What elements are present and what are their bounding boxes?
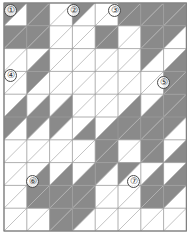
numbered-marker-5[interactable]: ⑤ xyxy=(157,76,170,89)
numbered-marker-2[interactable]: ② xyxy=(67,4,80,17)
numbered-marker-7[interactable]: ⑦ xyxy=(127,175,140,188)
pattern-grid xyxy=(0,0,192,242)
numbered-marker-3[interactable]: ③ xyxy=(108,4,121,17)
numbered-marker-6[interactable]: ⑥ xyxy=(26,175,39,188)
numbered-marker-4[interactable]: ④ xyxy=(4,69,17,82)
numbered-marker-1[interactable]: ① xyxy=(4,4,17,17)
quilt-pattern-canvas: ①②③④⑤⑥⑦ xyxy=(0,0,192,242)
